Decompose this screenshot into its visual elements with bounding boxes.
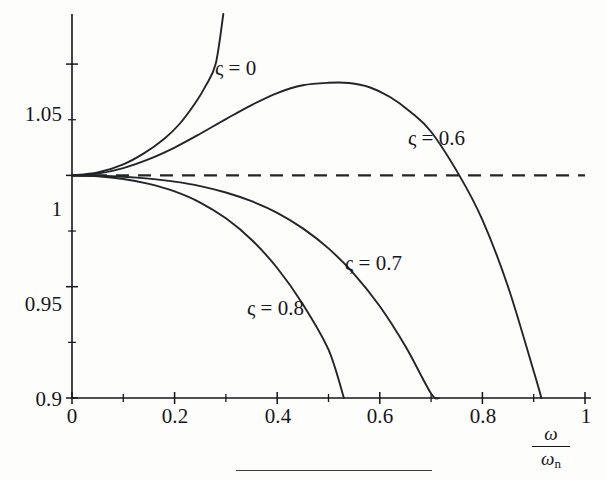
curve-0-8 <box>72 175 344 398</box>
x-axis-title: ω ωn <box>524 424 578 471</box>
x-tick-label-0.6: 0.6 <box>358 404 402 429</box>
curve-label-zeta-0.7: ς = 0.7 <box>345 251 402 276</box>
curves-group <box>72 14 541 399</box>
curve-0-6 <box>72 82 541 398</box>
x-tick-label-0: 0 <box>50 404 94 429</box>
curve-label-zeta-0: ς = 0 <box>215 56 256 81</box>
figure-container: 1.05 1 0.95 0.9 0 0.2 0.4 0.6 0.8 1 ω ωn… <box>0 0 606 480</box>
x-tick-label-0.8: 0.8 <box>461 404 505 429</box>
y-tick-label-1.05: 1.05 <box>0 102 62 127</box>
fraction-bar <box>532 446 570 447</box>
x-axis-title-denominator: ωn <box>524 448 578 471</box>
y-tick-label-1: 1 <box>0 197 62 222</box>
curve-0-7 <box>72 175 439 398</box>
curve-0 <box>72 14 223 175</box>
x-axis-title-numerator: ω <box>524 424 578 445</box>
curve-label-zeta-0.6: ς = 0.6 <box>408 126 465 151</box>
y-tick-label-0.95: 0.95 <box>0 292 62 317</box>
x-tick-label-0.4: 0.4 <box>256 404 300 429</box>
caption-rule <box>236 470 432 471</box>
axes-group <box>66 14 591 404</box>
x-tick-label-0.2: 0.2 <box>153 404 197 429</box>
curve-label-zeta-0.8: ς = 0.8 <box>247 296 304 321</box>
